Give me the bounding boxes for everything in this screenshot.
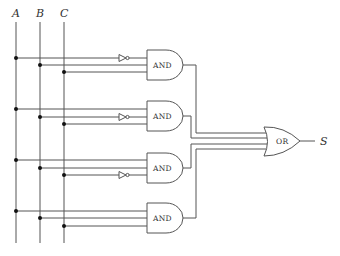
and-gate-3: AND	[147, 153, 183, 183]
and-gate-2-inputs	[14, 107, 147, 126]
and-gate-1-inputs	[14, 55, 147, 75]
inverter-icon	[119, 172, 126, 179]
input-label-b: B	[35, 7, 44, 20]
and-gate-1: AND	[147, 50, 183, 80]
logic-circuit-diagram: A B C	[0, 0, 340, 256]
or-gate: OR	[264, 127, 300, 156]
inverter-icon	[119, 114, 126, 121]
and-gate-4: AND	[147, 203, 183, 233]
svg-text:OR: OR	[276, 137, 288, 146]
input-label-c: C	[60, 7, 69, 20]
inverter-icon	[119, 55, 126, 62]
svg-text:AND: AND	[152, 164, 172, 173]
input-label-a: A	[11, 7, 20, 20]
svg-text:AND: AND	[152, 214, 172, 223]
output-label-s: S	[320, 135, 328, 148]
or-input-wires	[183, 65, 268, 218]
svg-text:AND: AND	[152, 61, 172, 70]
and-gate-2: AND	[147, 101, 183, 131]
and-gate-3-inputs	[14, 158, 147, 179]
and-gate-4-inputs	[14, 209, 147, 228]
svg-text:AND: AND	[152, 112, 172, 121]
